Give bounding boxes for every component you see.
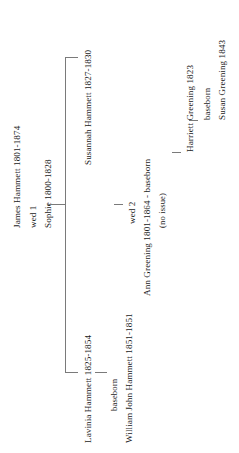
connector-lavinia-to-william	[95, 372, 107, 373]
note-baseborn-william: baseborn	[110, 379, 119, 411]
connector-harriett-to-susan	[189, 120, 198, 121]
connector-ann-to-harriett	[172, 152, 181, 153]
node-james-hammett: James Hammett 1801-1874	[13, 126, 22, 228]
connector-couple1-stem	[47, 204, 65, 205]
node-susan-greening: Susan Greening 1843	[218, 40, 227, 120]
node-ann-greening: Ann Greening 1801-1864 - baseborn	[143, 159, 152, 296]
node-harriett-greening: Harriett Greening 1823	[186, 65, 195, 152]
family-tree-chart: James Hammett 1801-1874 wed 1 Sophie 180…	[0, 0, 239, 453]
node-susannah-hammett: Susannah Hammett 1827-1830	[84, 50, 93, 165]
note-no-issue: (no issue)	[158, 193, 167, 228]
connector-couple2-stem	[114, 204, 123, 205]
note-baseborn-susan: baseborn	[203, 88, 212, 120]
node-lavinia-hammett: Lavinia Hammett 1825-1854	[84, 335, 93, 443]
node-wed1-label: wed 1	[29, 206, 38, 228]
node-william-john-hammett: William John Hammett 1851-1851	[125, 313, 134, 443]
connector-branch-susannah	[65, 57, 78, 58]
connector-branch-lavinia	[65, 372, 78, 373]
node-sophie: Sophie 1800-1828	[44, 159, 53, 228]
connector-sibling-bracket	[65, 57, 66, 373]
node-wed2-label: wed 2	[128, 202, 137, 224]
